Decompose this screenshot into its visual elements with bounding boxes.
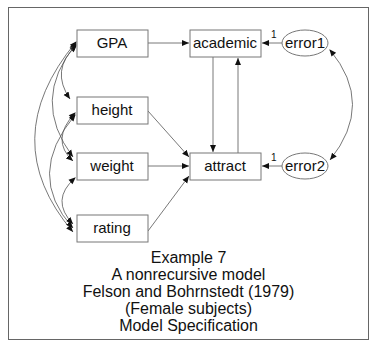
- svg-text:weight: weight: [89, 157, 134, 174]
- node-rating[interactable]: rating: [77, 215, 148, 242]
- node-weight[interactable]: weight: [77, 153, 148, 180]
- weight-label-error1: 1: [271, 29, 277, 40]
- caption-title: Example 7: [8, 249, 369, 266]
- cov-gpa-rating: [35, 42, 76, 232]
- cov-error1-error2: [330, 50, 353, 160]
- node-error1[interactable]: error1: [282, 30, 328, 56]
- svg-text:GPA: GPA: [97, 34, 128, 51]
- caption-subjects: (Female subjects): [8, 300, 369, 317]
- caption-citation: Felson and Bohrnstedt (1979): [8, 283, 369, 300]
- node-height[interactable]: height: [77, 97, 148, 124]
- edge-rating-attract: [148, 176, 189, 231]
- covariance-curves: [35, 42, 76, 232]
- node-attract[interactable]: attract: [190, 153, 261, 180]
- cov-height-weight: [62, 113, 75, 161]
- svg-text:height: height: [92, 101, 134, 118]
- node-gpa[interactable]: GPA: [77, 30, 148, 57]
- svg-text:attract: attract: [204, 157, 247, 174]
- svg-text:rating: rating: [93, 219, 131, 236]
- node-error2[interactable]: error2: [282, 153, 328, 179]
- svg-text:error2: error2: [285, 157, 325, 174]
- caption-spec: Model Specification: [8, 317, 369, 334]
- svg-text:academic: academic: [193, 34, 258, 51]
- svg-text:error1: error1: [285, 34, 325, 51]
- edge-height-attract: [148, 111, 189, 157]
- cov-gpa-weight: [52, 44, 76, 157]
- weight-label-error2: 1: [271, 152, 277, 163]
- node-academic[interactable]: academic: [190, 30, 261, 57]
- cov-height-rating: [49, 115, 75, 228]
- caption-subtitle: A nonrecursive model: [8, 266, 369, 283]
